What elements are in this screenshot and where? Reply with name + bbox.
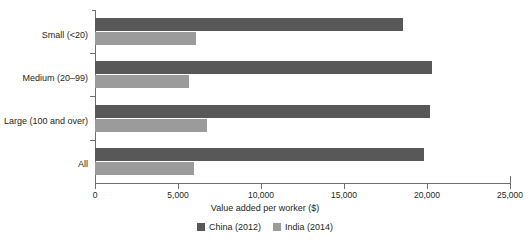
legend-label-india: India (2014) <box>285 222 333 232</box>
x-axis-tick-label: 0 <box>93 190 98 200</box>
x-axis-title: Value added per worker ($) <box>0 203 530 213</box>
category-label-large: Large (100 and over) <box>0 116 88 126</box>
category-label-medium: Medium (20–99) <box>0 73 88 83</box>
legend-swatch-china-icon <box>197 223 205 231</box>
legend-item-india: India (2014) <box>273 222 333 232</box>
bar-india-medium <box>95 75 189 88</box>
plot-area <box>95 12 510 182</box>
x-axis-tick-label: 15,000 <box>331 190 357 200</box>
bar-india-all <box>95 162 194 175</box>
legend-swatch-india-icon <box>273 223 281 231</box>
x-axis-tick <box>427 183 428 189</box>
x-axis-tick <box>344 183 345 189</box>
x-axis-tick <box>95 183 96 189</box>
bar-india-large <box>95 119 207 132</box>
x-axis-tick-label: 5,000 <box>167 190 188 200</box>
x-axis-line <box>95 183 511 184</box>
bar-india-small <box>95 32 196 45</box>
x-axis-tick-label: 10,000 <box>248 190 274 200</box>
bar-chart: Small (<20) Medium (20–99) Large (100 an… <box>0 0 530 240</box>
x-axis-tick-label: 20,000 <box>414 190 440 200</box>
bar-china-small <box>95 18 403 31</box>
legend-item-china: China (2012) <box>197 222 261 232</box>
legend-label-china: China (2012) <box>209 222 261 232</box>
bar-china-large <box>95 105 430 118</box>
x-axis-tick <box>178 183 179 189</box>
x-axis-tick <box>510 183 511 189</box>
bar-china-medium <box>95 61 432 74</box>
x-axis-tick-label: 25,000 <box>497 190 523 200</box>
bar-china-all <box>95 148 424 161</box>
category-label-all: All <box>0 159 88 169</box>
y-axis-top-cap <box>92 10 96 11</box>
x-axis-tick <box>261 183 262 189</box>
category-label-small: Small (<20) <box>0 30 88 40</box>
chart-legend: China (2012) India (2014) <box>0 222 530 232</box>
